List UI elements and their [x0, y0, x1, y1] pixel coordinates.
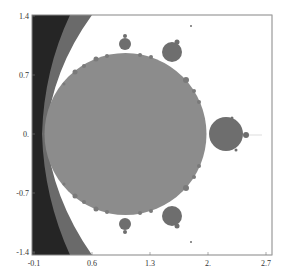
- x-tick-label: 0.6: [87, 259, 97, 268]
- y-tick-label: -0.7: [16, 189, 29, 198]
- y-tick-label: -1.4: [16, 248, 29, 257]
- lower-bulb-small: [119, 218, 131, 230]
- fractal-plot: 1.4 0.7 0. -0.7 -1.4 -0.1 0.6 1.3 2. 2.7: [0, 0, 293, 280]
- main-disk: [45, 53, 207, 215]
- upper-bulb-small: [119, 38, 131, 50]
- upper-bulb-large: [162, 42, 182, 62]
- right-bulb: [209, 117, 243, 151]
- lower-bulb-large: [162, 206, 182, 226]
- x-tick-label: 2.7: [261, 259, 271, 268]
- right-satellite: [243, 132, 249, 138]
- y-tick-label: 0.: [23, 130, 29, 139]
- x-tick-label: 2.: [205, 259, 211, 268]
- y-tick-label: 1.4: [19, 12, 29, 21]
- x-tick-label: -0.1: [28, 259, 41, 268]
- y-tick-label: 0.7: [19, 71, 29, 80]
- x-tick-label: 1.3: [145, 259, 155, 268]
